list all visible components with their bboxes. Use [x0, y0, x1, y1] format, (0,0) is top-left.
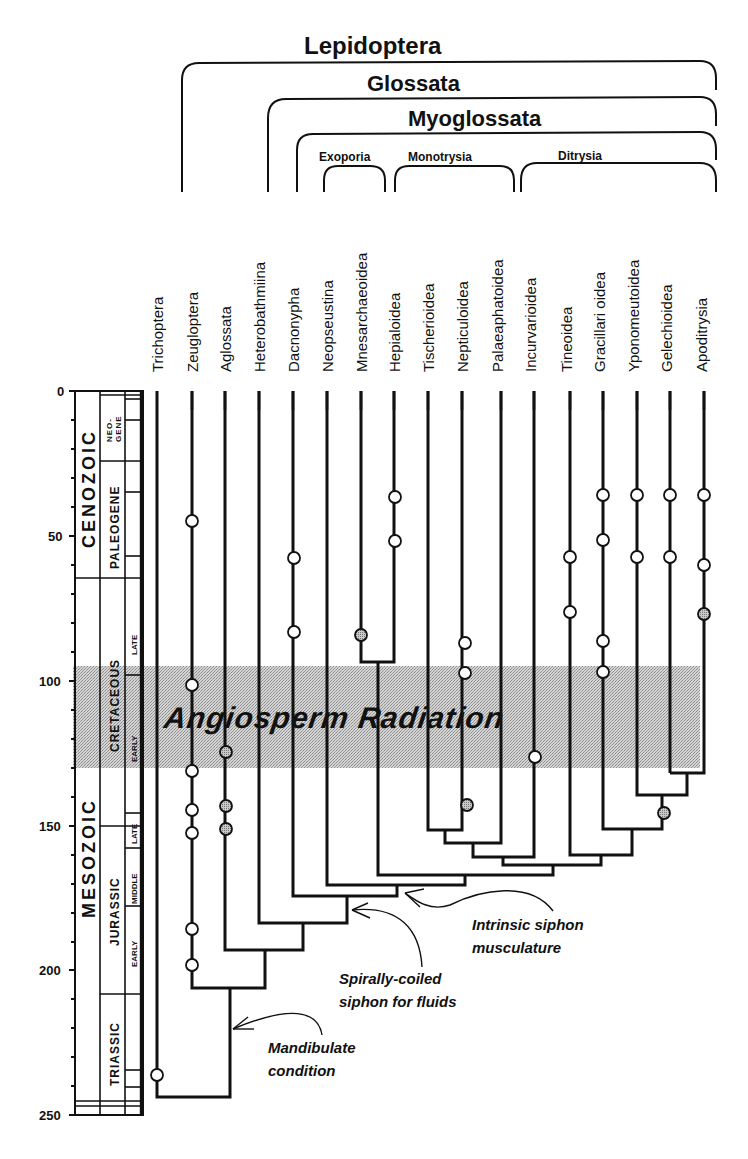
period-label-neogene-top: NEO-	[105, 418, 114, 442]
annotation-arrows	[233, 889, 553, 1035]
axis-tick-0: 0	[57, 384, 64, 399]
clade-label-lepidoptera: Lepidoptera	[304, 32, 442, 59]
period-label-paleogene: PALEOGENE	[108, 486, 122, 569]
taxon-label-incurvarioidea: Incurvarioidea	[522, 277, 539, 372]
axis-tick-150: 150	[39, 819, 61, 834]
clade-label-exoporia: Exoporia	[319, 150, 371, 164]
axis-tick-200: 200	[39, 963, 61, 978]
taxon-label-trichoptera: Trichoptera	[149, 296, 166, 372]
period-label-jurassic: JURASSIC	[108, 877, 122, 946]
taxon-label-mnesarchaeoidea: Mnesarchaeoidea	[353, 252, 370, 372]
era-label-cenozoic: CENOZOIC	[79, 429, 99, 548]
taxon-labels: Trichoptera Zeugloptera Aglossata Hetero…	[149, 252, 710, 372]
taxon-label-tineoidea: Tineoidea	[558, 306, 575, 372]
angiosperm-radiation-label: Angiosperm Radiation	[161, 701, 506, 734]
epoch-label-cretaceous-early: EARLY	[130, 735, 139, 762]
taxon-label-neopseustina: Neopseustina	[319, 280, 336, 372]
axis-tick-50: 50	[48, 529, 62, 544]
clade-label-myoglossata: Myoglossata	[408, 106, 542, 131]
clade-label-ditrysia: Ditrysia	[558, 149, 602, 163]
taxon-label-zeugloptera: Zeugloptera	[184, 291, 201, 372]
taxon-label-apoditrysia: Apoditrysia	[693, 297, 710, 372]
epoch-label-jurassic-middle: MIDDLE	[130, 873, 139, 904]
period-label-cretaceous: CRETACEOUS	[108, 659, 122, 752]
taxon-label-heterobathmiina: Heterobathmiina	[251, 261, 268, 372]
taxon-label-yponomeutoidea: Yponomeutoidea	[625, 259, 642, 372]
taxon-label-gelechioidea: Gelechioidea	[658, 284, 675, 372]
era-label-mesozoic: MESOZOIC	[79, 798, 99, 918]
taxon-label-tischerioidea: Tischerioidea	[420, 283, 437, 372]
phylogeny-figure: Lepidoptera Glossata Myoglossata Exopori…	[0, 0, 748, 1159]
taxon-label-palaeaphatoidea: Palaeaphatoidea	[489, 259, 506, 372]
axis-tick-100: 100	[39, 674, 61, 689]
annotation-intrinsic-line1: Intrinsic siphon	[472, 916, 584, 933]
taxon-label-gracillarioidea: Gracillari oidea	[591, 271, 608, 372]
clade-label-glossata: Glossata	[367, 71, 461, 96]
period-label-neogene-bottom: GENE	[114, 415, 123, 442]
taxon-label-dacnonypha: Dacnonypha	[285, 287, 302, 372]
taxon-label-nepticuloidea: Nepticuloidea	[454, 280, 471, 372]
epoch-label-jurassic-late: LATE	[130, 823, 139, 844]
annotation-intrinsic-line2: musculature	[472, 939, 561, 956]
epoch-label-cretaceous-late: LATE	[130, 634, 139, 655]
taxon-tick-marks	[192, 391, 704, 410]
annotation-mandibulate-line2: condition	[268, 1062, 336, 1079]
annotation-mandibulate-line1: Mandibulate	[268, 1039, 356, 1056]
epoch-label-jurassic-early: EARLY	[130, 940, 139, 967]
period-label-triassic: TRIASSIC	[108, 1022, 122, 1086]
clade-label-monotrysia: Monotrysia	[408, 150, 472, 164]
annotation-spiral-line1: Spirally-coiled	[339, 970, 442, 987]
taxon-label-aglossata: Aglossata	[217, 305, 234, 372]
taxon-label-hepialoidea: Hepialoidea	[386, 292, 403, 372]
axis-tick-250: 250	[39, 1108, 61, 1123]
annotation-spiral-line2: siphon for fluids	[339, 993, 457, 1010]
